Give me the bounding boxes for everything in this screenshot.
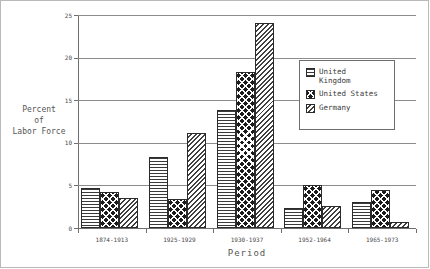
x-axis-title: Period xyxy=(78,248,416,258)
bar xyxy=(371,190,390,228)
bar xyxy=(352,202,371,228)
bar xyxy=(119,198,138,228)
bar xyxy=(303,185,322,228)
y-axis-title-line-2: of xyxy=(4,115,74,126)
legend-swatch-uk-icon xyxy=(306,68,315,77)
y-axis-title: Percent of Labor Force xyxy=(4,104,74,137)
chart-legend: United Kingdom United States Germany xyxy=(299,60,395,130)
bar xyxy=(217,110,236,228)
y-axis-tick-label: 0 xyxy=(52,225,72,232)
bar xyxy=(255,23,274,228)
x-axis-tick-mark xyxy=(281,229,282,233)
legend-label-germany: Germany xyxy=(319,103,351,112)
x-axis-tick-mark xyxy=(213,229,214,233)
bar xyxy=(81,188,100,228)
x-axis-tick-mark xyxy=(146,229,147,233)
bar xyxy=(149,157,168,228)
x-axis-tick-label: 1965-1973 xyxy=(342,236,422,243)
legend-swatch-us-icon xyxy=(306,90,315,99)
y-axis-tick-label: 20 xyxy=(52,54,72,61)
x-axis-tick-mark xyxy=(416,229,417,233)
y-axis-title-line-3: Labor Force xyxy=(4,126,74,137)
y-axis-tick-label: 5 xyxy=(52,182,72,189)
y-axis-title-text-2: of xyxy=(34,116,44,125)
legend-label-united-kingdom: United Kingdom xyxy=(319,67,351,85)
y-axis-title-line-1: Percent xyxy=(4,104,74,115)
bar xyxy=(187,133,206,228)
chart-page: Percent of Labor Force 0510152025 1874-1… xyxy=(0,0,430,269)
x-axis-tick-mark xyxy=(78,229,79,233)
y-axis-tick-label: 25 xyxy=(52,12,72,19)
y-axis-title-text-3: Labor Force xyxy=(13,127,66,136)
bar xyxy=(284,208,303,228)
y-axis-tick-label: 10 xyxy=(52,139,72,146)
y-axis-title-text-1: Percent xyxy=(22,105,56,114)
bar xyxy=(322,206,341,228)
x-axis-line xyxy=(78,228,416,229)
bar xyxy=(236,72,255,228)
legend-item-united-kingdom: United Kingdom xyxy=(306,67,394,85)
bar xyxy=(100,192,119,228)
bar xyxy=(168,199,187,228)
legend-item-germany: Germany xyxy=(306,103,394,113)
legend-label-united-states: United States xyxy=(319,89,378,98)
legend-swatch-germany-icon xyxy=(306,104,315,113)
x-axis-tick-mark xyxy=(348,229,349,233)
y-axis-tick-label: 15 xyxy=(52,97,72,104)
legend-item-united-states: United States xyxy=(306,89,394,99)
